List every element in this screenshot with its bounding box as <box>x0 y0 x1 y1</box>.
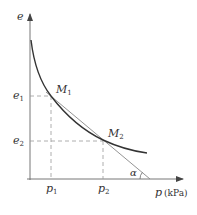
m2-label: M2 <box>107 127 124 141</box>
angle-arc <box>140 172 142 179</box>
p2-label: p2 <box>98 182 110 196</box>
x-axis-label: p(kPa) <box>155 186 188 199</box>
m1-label: M1 <box>55 83 72 97</box>
p1-label: p1 <box>46 182 58 196</box>
compression-curve <box>31 40 147 153</box>
e-p-diagram: e e1 e2 M1 M2 p1 p2 α p(kPa) <box>0 0 197 215</box>
e2-label: e2 <box>13 134 24 148</box>
alpha-label: α <box>130 167 137 178</box>
y-axis-label: e <box>17 10 24 23</box>
secant-line <box>46 92 150 179</box>
e1-label: e1 <box>13 89 24 103</box>
